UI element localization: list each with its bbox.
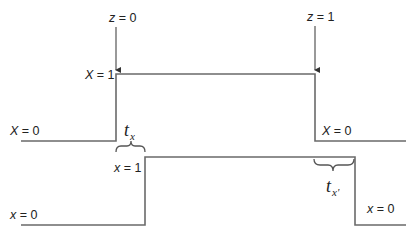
delay-tx-prime: tx' [314,159,354,198]
lower-high-label: x = 1 [113,161,141,175]
lower-low-left-label: x = 0 [9,208,37,222]
upper-low-right-label: X = 0 [321,124,352,138]
brace-up-icon [116,141,145,152]
brace-down-icon [314,159,354,171]
event-z1: z = 1 [306,10,334,70]
event-z0-label: z = 0 [108,11,136,25]
upper-low-left-label: X = 0 [9,124,40,138]
event-z0: z = 0 [108,11,136,70]
event-z1-label: z = 1 [306,10,334,24]
delay-tx: tx [116,120,145,152]
upper-high-label: X = 1 [84,68,115,82]
lower-waveform [21,157,406,225]
timing-diagram: z = 0 z = 1 X = 1 X = 0 X = 0 x = 1 x = … [0,0,416,238]
lower-low-right-label: x = 0 [366,202,394,216]
upper-signal-X: X = 1 X = 0 X = 0 [9,68,406,141]
lower-signal-x: x = 1 x = 0 x = 0 [9,157,406,225]
delay-tx-label: tx [124,120,135,142]
delay-tx-prime-label: tx' [326,176,340,198]
